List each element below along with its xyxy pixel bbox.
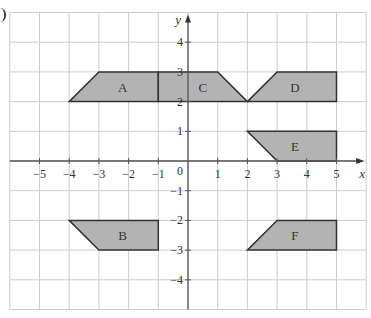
axes: [10, 15, 364, 310]
shape-label-b: B: [118, 228, 127, 243]
shape-label-c: C: [199, 80, 208, 95]
y-axis-arrow-icon: [185, 15, 191, 23]
shape-label-d: D: [290, 80, 299, 95]
y-tick-label: −3: [170, 243, 183, 257]
shape-a: [69, 72, 158, 102]
x-tick-label: 2: [244, 167, 250, 181]
y-axis-label: y: [173, 12, 181, 27]
y-tick-label: −4: [170, 273, 183, 287]
shape-label-a: A: [118, 80, 128, 95]
x-tick-label: 5: [334, 167, 340, 181]
coordinate-grid-diagram: −5−4−3−2−1123454321−1−2−3−40xy ACDEBF: [0, 0, 371, 318]
y-tick-label: 2: [177, 95, 183, 109]
x-axis-label: x: [358, 166, 365, 181]
shape-b: [69, 220, 158, 250]
x-tick-label: −2: [122, 167, 135, 181]
x-tick-label: −1: [152, 167, 165, 181]
x-tick-label: 4: [304, 167, 310, 181]
y-tick-label: −1: [170, 184, 183, 198]
origin-label: 0: [177, 164, 183, 178]
shape-label-f: F: [291, 228, 298, 243]
y-tick-label: 1: [177, 124, 183, 138]
y-tick-label: 3: [177, 65, 183, 79]
x-tick-label: −5: [33, 167, 46, 181]
x-tick-label: −4: [63, 167, 76, 181]
shape-label-e: E: [291, 139, 299, 154]
x-tick-label: 3: [274, 167, 280, 181]
x-tick-label: 1: [215, 167, 221, 181]
y-tick-label: −2: [170, 213, 183, 227]
x-axis-arrow-icon: [356, 158, 364, 164]
x-tick-label: −3: [93, 167, 106, 181]
y-tick-label: 4: [177, 35, 183, 49]
